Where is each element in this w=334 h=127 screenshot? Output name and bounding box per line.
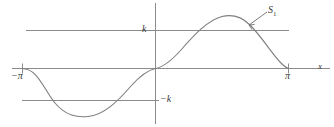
- curve-label-s1: S1: [268, 5, 277, 18]
- sine-curve-figure: [0, 0, 334, 127]
- axis-label-pi: π: [285, 71, 290, 81]
- axis-label-neg-pi: −π: [11, 71, 23, 81]
- axis-label-x: x: [318, 62, 322, 71]
- figure-container: −π π x k −k S1: [0, 0, 334, 127]
- level-label-neg-k: −k: [160, 94, 171, 104]
- level-label-k: k: [142, 24, 146, 34]
- curve-label-s1-subscript: 1: [273, 10, 277, 18]
- s1-leader-line: [249, 12, 267, 25]
